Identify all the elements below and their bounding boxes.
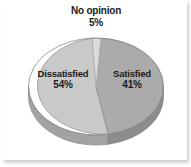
pie-label-dissatisfied-value: 54%	[26, 80, 100, 91]
pie-label-satisfied-value: 41%	[101, 80, 163, 91]
screenshot-root: No opinion 5% Dissatisfied 54% Satisfied…	[0, 0, 191, 167]
pie-label-dissatisfied: Dissatisfied 54%	[26, 69, 100, 90]
pie-label-satisfied: Satisfied 41%	[101, 69, 163, 90]
pie-label-dissatisfied-name: Dissatisfied	[38, 68, 89, 79]
pie-chart: No opinion 5% Dissatisfied 54% Satisfied…	[0, 0, 191, 167]
pie-label-no-opinion-value: 5%	[46, 18, 146, 29]
pie-label-satisfied-name: Satisfied	[113, 68, 151, 79]
pie-label-no-opinion-name: No opinion	[71, 5, 121, 16]
pie-label-no-opinion: No opinion 5%	[46, 6, 146, 28]
